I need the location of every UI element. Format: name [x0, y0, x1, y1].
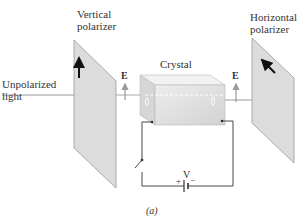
- circuit: [135, 121, 233, 192]
- e-field-label-left: E: [121, 70, 128, 82]
- vertical-polarizer-label-line2: polarizer: [77, 20, 116, 32]
- switch: [135, 160, 142, 168]
- unpolarized-light-label-line1: Unpolarized: [2, 78, 56, 90]
- vertical-polarizer-label-line1: Vertical: [77, 8, 111, 20]
- figure-caption: (a): [146, 205, 158, 217]
- horizontal-polarizer-label-line2: polarizer: [250, 23, 289, 35]
- e-field-label-right: E: [232, 70, 239, 82]
- horizontal-polarizer: [252, 38, 294, 163]
- crystal: [140, 75, 225, 125]
- crystal-label: Crystal: [160, 58, 192, 70]
- vertical-polarizer: [74, 40, 116, 188]
- horizontal-polarizer-label-line1: Horizontal: [250, 11, 297, 23]
- electro-optic-diagram: Vertical polarizer Horizontal polarizer …: [0, 0, 303, 221]
- battery-minus-sign: −: [190, 174, 195, 186]
- battery-plus-sign: +: [176, 175, 181, 187]
- unpolarized-light-label-line2: light: [2, 90, 22, 102]
